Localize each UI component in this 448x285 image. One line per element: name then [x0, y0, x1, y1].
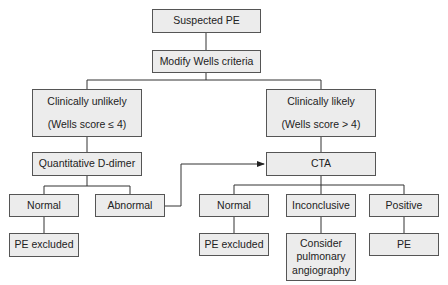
node-d-dimer-pe-excluded: PE excluded: [9, 233, 79, 257]
node-cta-normal: Normal: [199, 194, 269, 217]
node-label: Normal: [217, 199, 251, 212]
node-label: Positive: [386, 199, 423, 212]
node-pe: PE: [369, 233, 439, 256]
node-consider-pulmonary-angiography: Consider pulmonary angiography: [286, 233, 356, 281]
node-clinically-unlikely: Clinically unlikely (Wells score ≤ 4): [32, 89, 142, 137]
node-suspected-pe: Suspected PE: [152, 9, 261, 33]
node-label: PE: [397, 238, 411, 251]
node-cta-inconclusive: Inconclusive: [286, 194, 356, 217]
node-label: Inconclusive: [292, 199, 350, 212]
node-sublabel: (Wells score > 4): [282, 118, 361, 131]
node-label: Clinically likely: [287, 95, 355, 108]
node-d-dimer-normal: Normal: [9, 194, 79, 217]
node-label: Normal: [27, 199, 61, 212]
node-modify-wells-criteria: Modify Wells criteria: [152, 50, 261, 73]
node-label: Suspected PE: [173, 14, 240, 27]
node-label: PE excluded: [205, 238, 264, 251]
node-d-dimer-abnormal: Abnormal: [95, 194, 165, 217]
node-sublabel: (Wells score ≤ 4): [48, 118, 127, 131]
node-label: CTA: [311, 157, 331, 170]
node-label: Consider pulmonary angiography: [291, 237, 351, 276]
node-label: Clinically unlikely: [47, 95, 126, 108]
node-label: Quantitative D-dimer: [39, 157, 135, 170]
node-quantitative-d-dimer: Quantitative D-dimer: [32, 152, 142, 176]
node-cta-pe-excluded: PE excluded: [199, 233, 269, 256]
node-label: Abnormal: [108, 199, 153, 212]
node-label: PE excluded: [15, 238, 74, 251]
node-cta: CTA: [266, 152, 376, 176]
node-label: Modify Wells criteria: [160, 55, 254, 68]
node-clinically-likely: Clinically likely (Wells score > 4): [266, 89, 376, 137]
node-cta-positive: Positive: [369, 194, 439, 217]
